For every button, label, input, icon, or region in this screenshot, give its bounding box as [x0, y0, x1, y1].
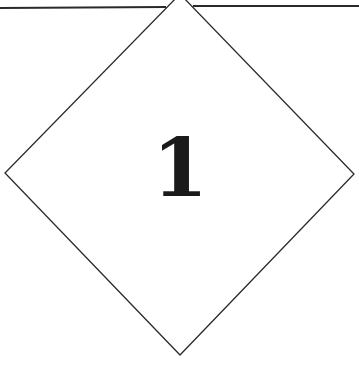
diamond-number-label: 1: [130, 118, 230, 218]
top-rule-left: [0, 7, 166, 8]
